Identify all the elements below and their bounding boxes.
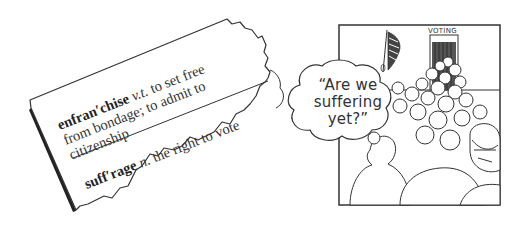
- bubble-line-2: suffering: [300, 94, 396, 111]
- speech-bubble-text: “Are we suffering yet?”: [300, 77, 396, 128]
- bubble-line-3: yet?”: [300, 111, 396, 128]
- part-of-speech: n.: [136, 152, 152, 171]
- headword: suff′rage: [82, 157, 139, 192]
- voting-sign: VOTING: [428, 27, 457, 35]
- bubble-line-1: “Are we: [300, 77, 396, 94]
